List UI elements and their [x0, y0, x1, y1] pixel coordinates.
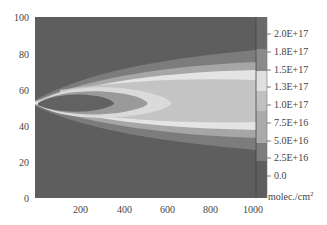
colorbar-label: 7.5E+16 — [274, 117, 308, 128]
x-tick-label: 1000 — [243, 204, 263, 215]
y-tick-label: 80 — [19, 49, 29, 60]
y-tick-label: 100 — [14, 12, 29, 23]
x-tick-label: 800 — [203, 204, 218, 215]
y-tick-label: 0 — [24, 193, 29, 204]
colorbar-label: 1.5E+17 — [274, 64, 308, 75]
colorbar-label: 0.0 — [274, 170, 287, 181]
colorbar-label: 1.0E+17 — [274, 99, 308, 110]
x-tick-label: 200 — [73, 204, 88, 215]
colorbar-label: 1.8E+17 — [274, 46, 308, 57]
colorbar-label: 1.3E+17 — [274, 81, 308, 92]
colorbar-label: 2.0E+17 — [274, 28, 308, 39]
colorbar-label: 2.5E+16 — [274, 152, 308, 163]
colorbar-unit: molec./cm2 — [268, 190, 314, 202]
contour-chart: 2.0E+17 1.8E+17 1.5E+17 1.3E+17 1.0E+17 … — [0, 0, 327, 225]
y-tick-label: 60 — [19, 85, 29, 96]
y-tick-label: 40 — [19, 121, 29, 132]
colorbar-ticks — [267, 34, 271, 176]
x-tick-label: 600 — [160, 204, 175, 215]
colorbar — [256, 17, 267, 198]
y-tick-label: 20 — [19, 157, 29, 168]
colorbar-label: 5.0E+16 — [274, 135, 308, 146]
x-tick-label: 400 — [117, 204, 132, 215]
